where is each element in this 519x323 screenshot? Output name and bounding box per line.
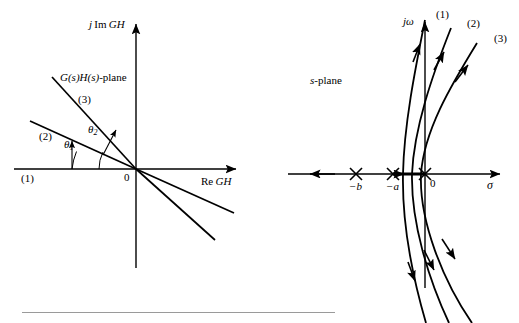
locus-branch-2-arrow-up — [434, 52, 444, 70]
locus-branch-label-2: (2) — [467, 18, 480, 29]
s-jomega-text: jω — [403, 15, 414, 27]
theta-1-arc — [72, 152, 77, 170]
s-sigma-axis-label: σ — [487, 179, 493, 191]
gh-plane-group — [14, 24, 236, 268]
gh-curve-label-2: (2) — [39, 131, 52, 142]
s-plane-group — [288, 20, 500, 323]
gh-axis-gh: GH — [109, 18, 125, 30]
gh-curve-label-1: (1) — [21, 173, 34, 184]
gh-curve-label-3: (3) — [78, 94, 91, 105]
s-plane-label-suffix: -plane — [314, 74, 341, 86]
gh-axis-gh-2: GH — [215, 175, 231, 187]
theta-1-label: θ1 — [64, 139, 73, 152]
gh-imaginary-axis-label: j Im GH — [89, 19, 125, 30]
gh-real-axis-label: Re GH — [201, 176, 231, 187]
s-jomega-axis-label: jω — [403, 16, 414, 27]
locus-branch-label-1: (1) — [436, 9, 449, 20]
gh-plane-label: G(s)H(s)-plane — [60, 72, 127, 83]
plane-label-h: H — [80, 71, 88, 83]
gh-axis-re: Re — [201, 175, 213, 187]
gh-ray-2-upper — [30, 121, 136, 169]
theta-2-label: θ2 — [88, 124, 97, 137]
figure-root: j Im GH Re GH G(s)H(s)-plane (3) (2) (1)… — [0, 0, 519, 323]
gh-ray-3-upper — [52, 77, 136, 169]
plane-label-g: G — [60, 71, 68, 83]
theta-1-subscript: 1 — [69, 143, 73, 152]
locus-branch-3-arrow-down — [442, 239, 455, 259]
plane-label-s2: (s) — [88, 71, 100, 83]
gh-origin-label: 0 — [124, 172, 130, 183]
s-sigma-text: σ — [487, 178, 493, 192]
figure-canvas — [0, 0, 519, 323]
s-plane-label: s-plane — [310, 75, 342, 86]
plane-label-suffix: -plane — [99, 71, 126, 83]
plane-label-s1: (s) — [68, 71, 80, 83]
s-origin-label: 0 — [430, 178, 436, 189]
locus-branch-label-3: (3) — [494, 33, 507, 44]
footer-divider — [22, 312, 335, 313]
pole-label-minus-a: −a — [386, 181, 399, 192]
gh-axis-im: Im — [94, 18, 106, 30]
theta-2-subscript: 2 — [93, 128, 97, 137]
pole-label-minus-b: −b — [349, 181, 362, 192]
